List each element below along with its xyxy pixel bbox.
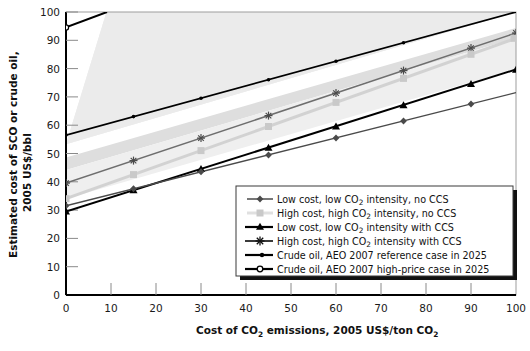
y-tick-label: 30 <box>47 204 60 216</box>
y-tick-label: 0 <box>53 289 60 301</box>
y-tick-label: 60 <box>47 119 60 131</box>
x-tick-label: 10 <box>104 302 117 314</box>
open-circle-marker-icon <box>257 266 263 272</box>
x-tick-labels: 0 10 20 30 40 50 60 70 80 90 100 <box>63 302 526 314</box>
y-tick-label: 10 <box>47 261 60 273</box>
x-axis-title-a: Cost of CO <box>196 324 258 336</box>
x-tick-label: 100 <box>506 302 526 314</box>
dot-marker-icon <box>260 253 264 257</box>
y-axis-title: Estimated cost of SCO or crude oil, 2005… <box>7 51 33 258</box>
y-tick-label: 50 <box>47 148 60 160</box>
legend-label-b: intensity, no CCS <box>371 208 456 219</box>
legend-label: Crude oil, AEO 2007 high-price case in 2… <box>277 264 489 275</box>
x-tick-label: 20 <box>149 302 162 314</box>
chart-svg: 100 90 80 70 60 50 40 30 20 10 0 0 10 20… <box>0 0 530 351</box>
legend-label-b: intensity with CCS <box>363 222 454 233</box>
star-marker-icon <box>256 237 265 246</box>
legend: Low cost, low CO2 intensity, no CCS High… <box>236 186 517 280</box>
y-axis-title-line2: 2005 US$/bbl <box>21 133 33 212</box>
legend-item-crude-reference[interactable]: Crude oil, AEO 2007 reference case in 20… <box>245 250 487 261</box>
legend-label-b: intensity with CCS <box>371 236 462 247</box>
legend-item-crude-high-price[interactable]: Crude oil, AEO 2007 high-price case in 2… <box>245 264 489 275</box>
x-tick-label: 60 <box>329 302 342 314</box>
y-tick-label: 70 <box>47 91 60 103</box>
y-tick-label: 80 <box>47 63 60 75</box>
x-tick-label: 70 <box>374 302 387 314</box>
y-tick-label: 100 <box>40 6 60 18</box>
y-tick-label: 90 <box>47 34 60 46</box>
x-tick-label: 30 <box>194 302 207 314</box>
x-tick-label: 0 <box>63 302 70 314</box>
legend-label-b: intensity, no CCS <box>363 194 448 205</box>
y-tick-labels: 100 90 80 70 60 50 40 30 20 10 0 <box>40 6 60 301</box>
x-tick-label: 90 <box>464 302 477 314</box>
legend-label: Low cost, low CO <box>277 222 359 233</box>
square-marker-icon <box>257 210 264 217</box>
legend-label: Crude oil, AEO 2007 reference case in 20… <box>277 250 487 261</box>
svg-text:Cost of CO2 emissions, 2005 US: Cost of CO2 emissions, 2005 US$/ton CO2 <box>196 324 438 339</box>
x-axis-title-b: emissions, 2005 US$/ton CO <box>263 324 433 336</box>
chart-figure: 100 90 80 70 60 50 40 30 20 10 0 0 10 20… <box>0 0 530 351</box>
legend-label: High cost, high CO <box>277 208 367 219</box>
legend-label: Low cost, low CO <box>277 194 359 205</box>
x-axis-title-sub2: 2 <box>433 330 438 339</box>
x-tick-label: 80 <box>419 302 432 314</box>
y-tick-label: 40 <box>47 176 60 188</box>
y-tick-label: 20 <box>47 232 60 244</box>
x-tick-label: 50 <box>284 302 297 314</box>
y-axis-title-line1: Estimated cost of SCO or crude oil, <box>7 51 19 258</box>
legend-label: High cost, high CO <box>277 236 367 247</box>
x-tick-label: 40 <box>239 302 252 314</box>
markers-crude-high-price <box>63 25 68 30</box>
x-axis-title: Cost of CO2 emissions, 2005 US$/ton CO2 <box>196 324 438 339</box>
